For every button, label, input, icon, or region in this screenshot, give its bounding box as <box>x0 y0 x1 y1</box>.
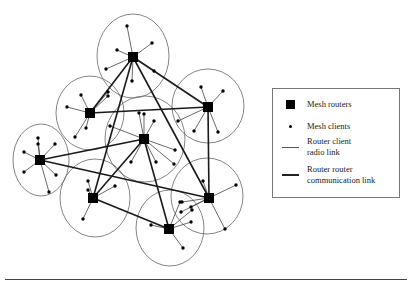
mesh-client-icon <box>106 90 109 93</box>
legend-label-radio-link-line1: Router client <box>307 136 399 147</box>
mesh-client-icon <box>53 142 56 145</box>
mesh-client-icon <box>65 105 68 108</box>
legend-label-comm-link-line1: Router router <box>307 164 399 175</box>
mesh-router-icon-r3 <box>203 102 213 112</box>
mesh-client-icon <box>179 210 182 213</box>
mesh-client-icon <box>79 93 82 96</box>
bottom-rule-divider <box>5 279 407 280</box>
mesh-client-icon <box>104 67 107 70</box>
mesh-client-icon <box>81 217 84 220</box>
mesh-router-icon-r5 <box>35 155 45 165</box>
mesh-client-icon <box>181 246 184 249</box>
mesh-client-icon <box>113 184 116 187</box>
mesh-router-icon-r8 <box>164 224 174 234</box>
mesh-client-icon <box>108 124 111 127</box>
legend-label-radio-link: Router client radio link <box>307 136 399 158</box>
mesh-client-icon <box>192 129 195 132</box>
legend-label-radio-link-line2: radio link <box>307 147 399 158</box>
radio-link <box>110 126 144 139</box>
mesh-client-icon <box>73 135 76 138</box>
communication-link-r1-r2 <box>90 57 133 113</box>
mesh-client-icon <box>178 200 181 203</box>
mesh-client-icon <box>154 160 157 163</box>
mesh-client-icon <box>106 94 109 97</box>
mesh-client-icon <box>142 112 145 115</box>
legend-label-comm-link-line2: communication link <box>307 175 399 186</box>
coverage-circles <box>13 14 244 266</box>
communication-link-r3-r7 <box>208 107 209 198</box>
mesh-client-icon <box>149 223 152 226</box>
mesh-client-icon <box>189 205 192 208</box>
mesh-client-icon <box>22 150 25 153</box>
mesh-client-icon <box>36 142 39 145</box>
mesh-client-icon <box>221 89 224 92</box>
mesh-client-icon <box>223 227 226 230</box>
mesh-client-icon <box>36 136 39 139</box>
legend-label-routers: Mesh routers <box>307 99 399 110</box>
mesh-client-icon <box>86 179 89 182</box>
mesh-router-icon-r6 <box>88 193 98 203</box>
thin-line-icon <box>282 147 299 148</box>
mesh-router-icon-r2 <box>85 108 95 118</box>
mesh-client-icon <box>234 183 237 186</box>
communication-link-r6-r8 <box>93 198 169 229</box>
mesh-client-icon <box>84 126 87 129</box>
mesh-client-icon <box>176 119 179 122</box>
mesh-client-icon <box>86 188 89 191</box>
thick-line-icon <box>282 174 299 176</box>
mesh-client-icon <box>129 160 132 163</box>
communication-link-r1-r3 <box>133 57 208 107</box>
mesh-client-icon <box>54 173 57 176</box>
legend-label-communication-link: Router router communication link <box>307 164 399 186</box>
mesh-client-icon <box>125 24 128 27</box>
legend-box: Mesh routers Mesh clients Router client … <box>272 88 400 198</box>
mesh-client-icon <box>199 85 202 88</box>
mesh-client-icon <box>173 148 176 151</box>
mesh-client-icon <box>152 119 155 122</box>
mesh-client-icon <box>150 41 153 44</box>
mesh-router-icon-r1 <box>128 52 138 62</box>
communication-link-r5-r7 <box>40 160 209 198</box>
mesh-router-icon <box>286 100 295 109</box>
mesh-client-icon <box>190 208 193 211</box>
mesh-client-icon <box>47 190 50 193</box>
mesh-client-icon <box>137 111 140 114</box>
mesh-client-icon <box>189 220 192 223</box>
mesh-router-icon-r4 <box>139 134 149 144</box>
mesh-client-icon <box>130 79 133 82</box>
mesh-client-icon <box>289 125 292 128</box>
mesh-client-icon <box>152 69 155 72</box>
mesh-client-icon <box>201 179 204 182</box>
mesh-client-icon <box>22 170 25 173</box>
mesh-client-icon <box>216 130 219 133</box>
mesh-router-icon-r7 <box>204 193 214 203</box>
mesh-client-icon <box>172 162 175 165</box>
legend-label-clients: Mesh clients <box>307 121 399 132</box>
mesh-client-icon <box>115 48 118 51</box>
communication-link-r2-r3 <box>90 107 208 113</box>
